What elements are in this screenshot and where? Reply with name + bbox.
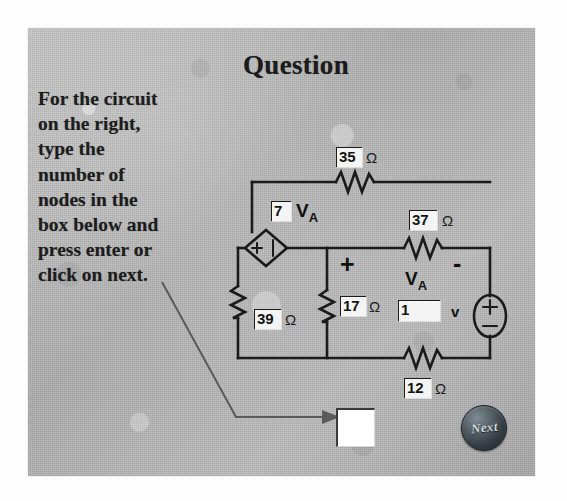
answer-input[interactable]: [336, 408, 375, 447]
resistor-value-17[interactable]: 17: [340, 296, 366, 316]
resistor-symbol-17: [320, 290, 334, 322]
resistor-unit-37: Ω: [442, 212, 453, 229]
dependent-source-variable-base: V: [296, 200, 309, 221]
resistor-unit-12: Ω: [435, 380, 446, 397]
resistor-symbol-37: [404, 238, 442, 258]
pointer-arrow: [162, 282, 340, 424]
measured-voltage-plus: +: [340, 250, 355, 279]
resistor-value-35[interactable]: 35: [336, 147, 362, 167]
next-button[interactable]: Next: [461, 405, 507, 451]
dependent-source-variable-label: VA: [296, 200, 318, 225]
slide-root: Question For the circuit on the right, t…: [0, 0, 567, 501]
dependent-source-gain-value[interactable]: 7: [271, 201, 291, 221]
next-button-label: Next: [470, 419, 498, 438]
resistor-unit-17: Ω: [369, 298, 380, 315]
dependent-source-variable-sub: A: [309, 210, 318, 225]
resistor-symbol-12: [404, 348, 442, 368]
measured-voltage-label: VA: [405, 268, 427, 293]
resistor-unit-35: Ω: [366, 149, 377, 166]
resistor-symbol-35: [336, 172, 374, 192]
resistor-symbol-39: [231, 286, 245, 318]
resistor-value-12[interactable]: 12: [404, 378, 431, 398]
measured-voltage-minus: -: [453, 249, 461, 278]
resistor-unit-39: Ω: [285, 311, 296, 328]
resistor-value-37[interactable]: 37: [409, 210, 437, 230]
measured-voltage-label-base: V: [405, 268, 418, 289]
source-value[interactable]: 1: [398, 300, 440, 321]
resistor-value-39[interactable]: 39: [254, 309, 281, 329]
measured-voltage-label-sub: A: [418, 278, 427, 293]
source-unit: v: [451, 303, 459, 320]
